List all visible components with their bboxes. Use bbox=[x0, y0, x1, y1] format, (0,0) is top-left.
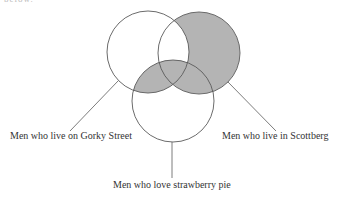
label-scottberg: Men who live in Scottberg bbox=[222, 130, 328, 141]
label-gorky-street: Men who live on Gorky Street bbox=[10, 130, 132, 141]
leader-line-scottberg bbox=[228, 82, 276, 131]
leader-line-gorky bbox=[70, 81, 118, 131]
venn-diagram: Men who live on Gorky Street Men who liv… bbox=[0, 0, 344, 200]
label-strawberry-pie: Men who love strawberry pie bbox=[113, 179, 231, 190]
